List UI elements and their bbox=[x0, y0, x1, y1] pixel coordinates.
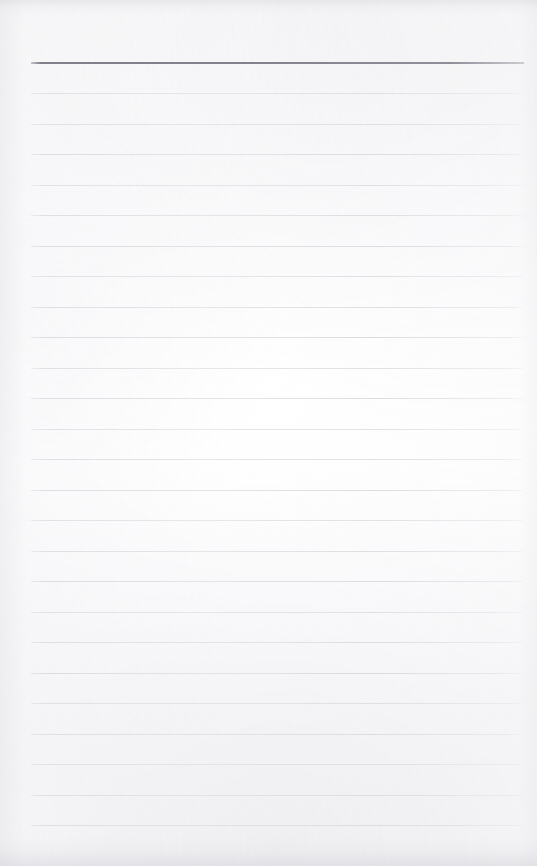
ruled-lines-layer bbox=[0, 0, 537, 866]
body-rule-line bbox=[31, 581, 524, 582]
body-rule-line bbox=[31, 825, 524, 826]
body-rule-line bbox=[31, 368, 524, 369]
body-rule-line bbox=[31, 185, 524, 186]
body-rule-line bbox=[31, 520, 524, 521]
body-rule-line bbox=[31, 398, 524, 399]
body-rule-line bbox=[31, 795, 524, 796]
body-rule-line bbox=[31, 764, 524, 765]
body-rule-line bbox=[31, 276, 524, 277]
body-rule-line bbox=[31, 642, 524, 643]
body-rule-line bbox=[31, 734, 524, 735]
notepad-page bbox=[0, 0, 537, 866]
body-rule-line bbox=[31, 673, 524, 674]
body-rule-line bbox=[31, 429, 524, 430]
body-rule-line bbox=[31, 551, 524, 552]
body-rule-line bbox=[31, 246, 524, 247]
body-rule-line bbox=[31, 215, 524, 216]
body-rule-line bbox=[31, 337, 524, 338]
body-rule-line bbox=[31, 154, 524, 155]
body-rule-line bbox=[31, 307, 524, 308]
body-rule-line bbox=[31, 612, 524, 613]
body-rule-line bbox=[31, 703, 524, 704]
header-rule-line bbox=[31, 62, 524, 64]
body-rule-line bbox=[31, 459, 524, 460]
body-rule-line bbox=[31, 490, 524, 491]
body-rule-line bbox=[31, 124, 524, 125]
body-rule-line bbox=[31, 93, 524, 94]
